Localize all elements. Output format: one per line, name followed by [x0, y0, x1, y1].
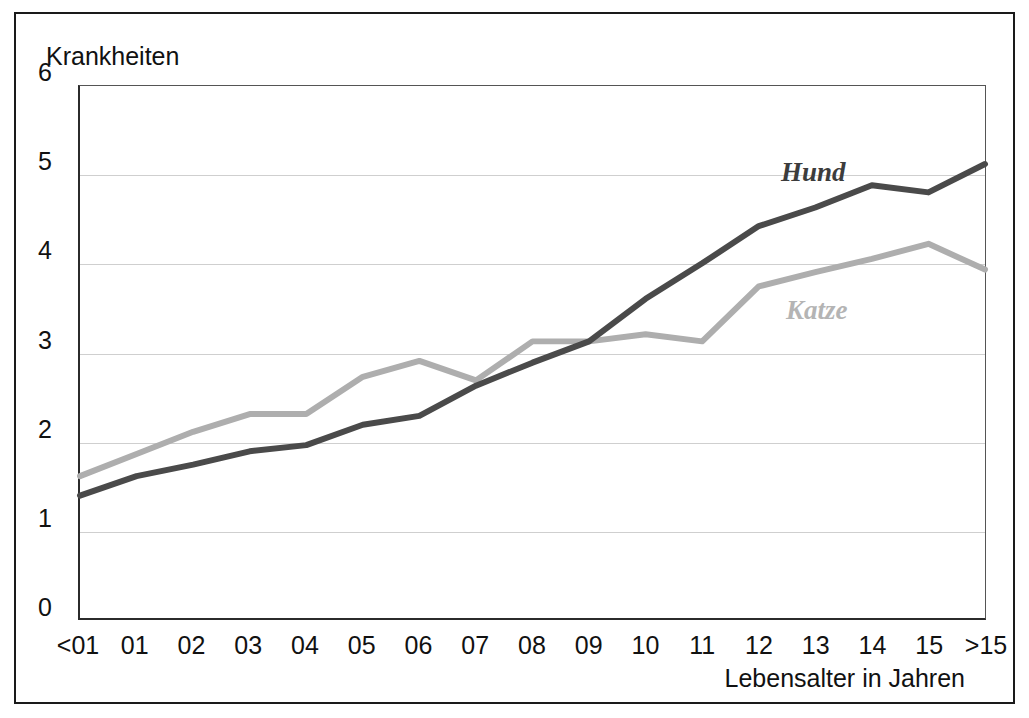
x-axis-tick-labels: <01010203040506070809101112131415>15: [78, 632, 986, 666]
series-line-hund: [80, 164, 985, 496]
x-tick-label-10: 10: [632, 632, 660, 658]
y-tick-label-0: 0: [22, 595, 52, 620]
series-label-katze: Katze: [786, 295, 848, 326]
x-tick-label-07: 07: [461, 632, 489, 658]
x-tick-label-02: 02: [178, 632, 206, 658]
plot-area: [78, 85, 986, 620]
y-tick-label-6: 6: [22, 60, 52, 85]
figure-frame: Krankheiten 0123456 <0101020304050607080…: [14, 12, 1015, 704]
y-tick-label-3: 3: [22, 328, 52, 353]
x-tick-label-13: 13: [802, 632, 830, 658]
x-axis-title: Lebensalter in Jahren: [725, 664, 965, 693]
chart-screenshot: Krankheiten 0123456 <0101020304050607080…: [0, 0, 1029, 718]
x-tick-label-06: 06: [405, 632, 433, 658]
x-tick-label-05: 05: [348, 632, 376, 658]
y-tick-label-5: 5: [22, 149, 52, 174]
x-tick-label-12: 12: [745, 632, 773, 658]
series-lines: [80, 86, 985, 618]
x-tick-label-14: 14: [859, 632, 887, 658]
y-tick-label-1: 1: [22, 506, 52, 531]
x-tick-label-09: 09: [575, 632, 603, 658]
y-tick-label-4: 4: [22, 238, 52, 263]
x-tick-label-08: 08: [518, 632, 546, 658]
series-label-hund: Hund: [781, 157, 846, 188]
x-tick-label-03: 03: [234, 632, 262, 658]
x-tick-label-11: 11: [689, 632, 715, 658]
x-tick-label-gt15: >15: [965, 632, 1007, 658]
y-tick-label-2: 2: [22, 417, 52, 442]
x-tick-label-01: 01: [121, 632, 149, 658]
x-tick-label-04: 04: [291, 632, 319, 658]
x-tick-label-15: 15: [915, 632, 943, 658]
x-tick-label-lt01: <01: [57, 632, 99, 658]
y-axis-title: Krankheiten: [46, 42, 179, 71]
